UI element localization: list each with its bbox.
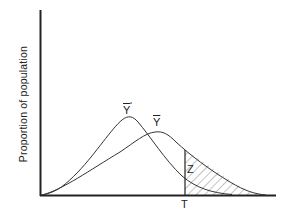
distribution-diagram: Proportion of population Y' Y Z T	[0, 0, 292, 215]
point-label-z: Z	[187, 164, 194, 175]
curve-label-y-bar: Y	[153, 117, 160, 128]
prime-mark: '	[130, 100, 132, 110]
hatched-tail-area	[185, 140, 270, 196]
diagram-canvas	[0, 0, 292, 215]
y-axis-label: Proportion of population	[18, 52, 29, 162]
curve-label-y-bar-prime: Y'	[123, 101, 132, 116]
threshold-label-t: T	[181, 199, 188, 210]
